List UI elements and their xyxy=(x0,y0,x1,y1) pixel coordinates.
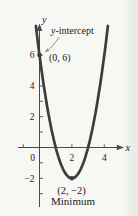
y-tick-label: 6 xyxy=(30,50,35,60)
point-marker xyxy=(70,176,75,181)
x-tick-label: 2 xyxy=(70,153,75,163)
graph-canvas: 024642−2 y x y-intercept (0, 6) (2, −2) … xyxy=(0,0,138,216)
y-intercept-callout-arrow xyxy=(48,37,59,50)
y-axis-label: y xyxy=(41,14,47,25)
y-tick-label: 4 xyxy=(30,81,35,91)
y-intercept-callout-label: y-intercept xyxy=(50,25,94,36)
x-axis-label: x xyxy=(125,142,131,153)
x-axis-arrowhead-icon xyxy=(117,145,124,150)
y-tick-label: 2 xyxy=(30,112,35,122)
parabola-figure: 024642−2 y x y-intercept (0, 6) (2, −2) … xyxy=(0,0,138,216)
y-intercept-callout-suffix: -intercept xyxy=(55,25,94,36)
minimum-label: Minimum xyxy=(51,195,95,207)
point-0-6-label: (0, 6) xyxy=(49,52,71,64)
point-marker xyxy=(37,53,42,58)
x-tick-label: 4 xyxy=(102,153,107,163)
x-tick-label: 0 xyxy=(30,153,35,163)
y-tick-label: −2 xyxy=(24,174,34,184)
